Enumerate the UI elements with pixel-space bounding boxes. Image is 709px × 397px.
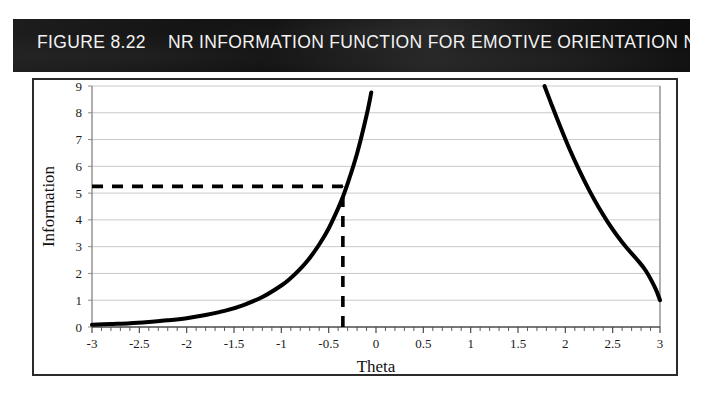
x-tick-label: 1 <box>467 336 474 351</box>
x-tick-label: 0.5 <box>415 336 431 351</box>
y-tick-label: 1 <box>76 293 83 308</box>
x-tick-label: 2.5 <box>605 336 621 351</box>
x-axis-tick-labels: -3-2.5-2-1.5-1-0.500.511.522.53 <box>87 336 664 351</box>
plot-axes <box>92 86 660 327</box>
x-tick-label: -3 <box>87 336 98 351</box>
x-tick-label: 1.5 <box>510 336 526 351</box>
annotation-group <box>92 186 343 327</box>
x-tick-label: -0.5 <box>318 336 339 351</box>
y-tick-label: 5 <box>76 186 83 201</box>
information-function-chart: -3-2.5-2-1.5-1-0.500.511.522.53 01234567… <box>32 78 678 376</box>
figure-container: FIGURE 8.22NR INFORMATION FUNCTION FOR E… <box>0 0 709 397</box>
y-tick-label: 4 <box>76 212 83 227</box>
y-tick-label: 9 <box>76 79 83 94</box>
figure-number-label: FIGURE 8.22 <box>37 32 146 52</box>
y-tick-label: 0 <box>76 320 83 335</box>
y-axis-title: Information <box>39 165 58 247</box>
y-tick-label: 2 <box>76 266 83 281</box>
x-axis-minor-ticks <box>92 327 660 333</box>
y-tick-label: 8 <box>76 105 83 120</box>
x-tick-label: -1 <box>276 336 287 351</box>
figure-title-bar: FIGURE 8.22NR INFORMATION FUNCTION FOR E… <box>13 19 690 72</box>
x-tick-label: -1.5 <box>224 336 245 351</box>
data-series-group <box>92 86 660 325</box>
x-tick-label: -2.5 <box>129 336 150 351</box>
y-tick-label: 7 <box>76 132 83 147</box>
information-curve-left <box>92 92 371 324</box>
x-tick-label: 3 <box>657 336 664 351</box>
grid-lines <box>92 86 660 327</box>
y-tick-label: 3 <box>76 239 83 254</box>
y-axis-tick-labels: 0123456789 <box>76 79 93 335</box>
x-tick-label: -2 <box>181 336 192 351</box>
figure-title: FIGURE 8.22NR INFORMATION FUNCTION FOR E… <box>37 32 690 53</box>
figure-title-text: NR INFORMATION FUNCTION FOR EMOTIVE ORIE… <box>168 32 690 52</box>
x-tick-label: 0 <box>373 336 380 351</box>
x-axis-title: Theta <box>357 357 396 376</box>
x-tick-label: 2 <box>562 336 569 351</box>
y-tick-label: 6 <box>76 159 83 174</box>
